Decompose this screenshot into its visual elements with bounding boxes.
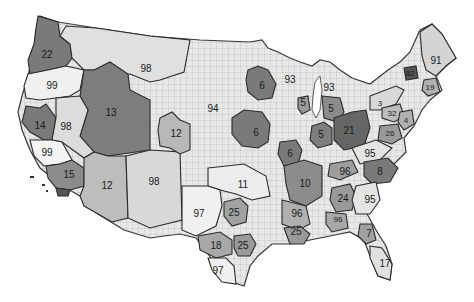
label-15: 15 (63, 170, 74, 180)
label-95: 95 (364, 149, 375, 159)
label-18: 18 (210, 241, 221, 251)
label-8: 8 (377, 167, 383, 177)
label-32: 32 (388, 110, 397, 118)
label-4: 4 (404, 117, 408, 125)
us-region-map (0, 0, 474, 302)
label-94: 94 (207, 104, 218, 114)
label-5: 5 (318, 130, 324, 140)
label-98: 98 (140, 64, 151, 74)
label-21: 21 (343, 126, 354, 136)
region-la (56, 188, 70, 196)
label-98: 98 (148, 177, 159, 187)
label-3: 3 (378, 100, 382, 108)
label-25: 25 (228, 208, 239, 218)
label-93: 93 (284, 75, 295, 85)
label-99: 99 (41, 148, 52, 158)
label-6: 6 (287, 149, 293, 159)
label-25: 25 (237, 241, 248, 251)
label-7: 7 (366, 229, 372, 239)
label-91: 91 (430, 56, 441, 66)
label-22: 22 (41, 50, 52, 60)
label-97: 97 (212, 266, 223, 276)
channel-islands (30, 176, 48, 192)
label-82: 82 (406, 70, 415, 78)
label-99: 99 (46, 81, 57, 91)
label-5: 5 (300, 98, 306, 108)
label-11: 11 (238, 180, 248, 190)
label-24: 24 (337, 194, 348, 204)
label-14: 14 (34, 121, 45, 131)
label-6: 6 (253, 128, 259, 138)
label-12: 12 (101, 181, 112, 191)
label-96: 96 (291, 209, 302, 219)
region-91 (420, 24, 456, 76)
label-17: 17 (379, 259, 390, 269)
label-98: 98 (60, 122, 71, 132)
label-25: 25 (290, 227, 301, 237)
region-98-nm (126, 150, 182, 228)
label-12: 12 (170, 129, 181, 139)
label-93: 93 (323, 83, 334, 93)
label-97: 97 (193, 209, 204, 219)
label-96: 96 (334, 216, 343, 224)
label-10: 10 (299, 179, 310, 189)
label-96: 96 (339, 167, 350, 177)
label-95: 95 (364, 195, 375, 205)
label-5: 5 (328, 104, 334, 114)
label-19: 19 (426, 84, 435, 92)
label-6: 6 (259, 81, 265, 91)
label-26: 26 (386, 130, 395, 138)
label-13: 13 (105, 108, 116, 118)
